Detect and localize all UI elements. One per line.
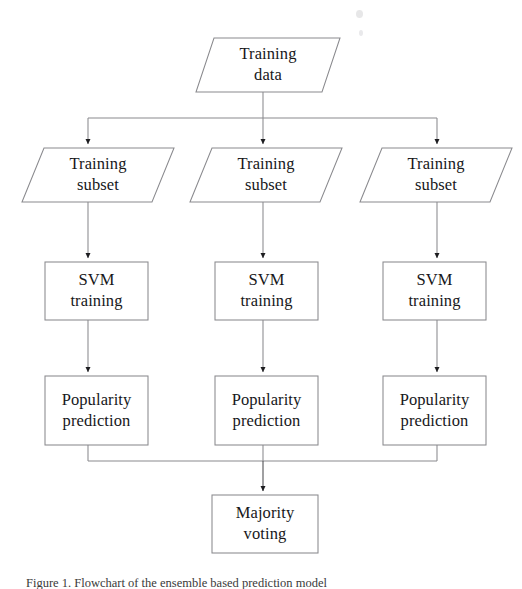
node-shape-training-subset-1 — [22, 148, 174, 202]
scan-artifact-speck — [356, 10, 363, 18]
node-shape-training-subset-2 — [190, 148, 342, 202]
figure-canvas: Training data Training subset Training s… — [0, 0, 522, 589]
node-shape-popularity-prediction-1 — [45, 376, 148, 445]
node-shape-svm-training-1 — [45, 262, 148, 320]
figure-caption: Figure 1. Flowchart of the ensemble base… — [26, 576, 496, 589]
node-shape-training-data — [196, 38, 340, 92]
node-shape-svm-training-2 — [215, 262, 318, 320]
node-shape-popularity-prediction-2 — [215, 376, 318, 445]
node-shape-popularity-prediction-3 — [383, 376, 486, 445]
scan-artifact-speck — [359, 30, 363, 36]
flowchart-vector-layer — [0, 0, 522, 589]
node-shape-majority-voting — [212, 495, 318, 553]
node-shape-training-subset-3 — [360, 148, 512, 202]
node-shape-svm-training-3 — [383, 262, 486, 320]
